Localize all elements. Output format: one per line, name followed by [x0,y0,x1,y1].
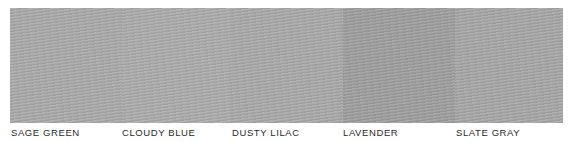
swatch-label: DUSTY LILAC [232,127,300,138]
swatch-label: LAVENDER [343,127,398,138]
swatch-cloudy-blue[interactable] [122,8,230,123]
swatch-dusty-lilac[interactable] [230,8,343,123]
swatch-lavender[interactable] [343,8,455,123]
swatch-label: SAGE GREEN [11,127,80,138]
swatch-label: CLOUDY BLUE [122,127,195,138]
swatch-slate-gray[interactable] [455,8,563,123]
swatch-label: SLATE GRAY [456,127,520,138]
swatch-strip [10,8,563,123]
swatch-labels: SAGE GREEN CLOUDY BLUE DUSTY LILAC LAVEN… [0,124,573,142]
swatch-sage-green[interactable] [10,8,122,123]
